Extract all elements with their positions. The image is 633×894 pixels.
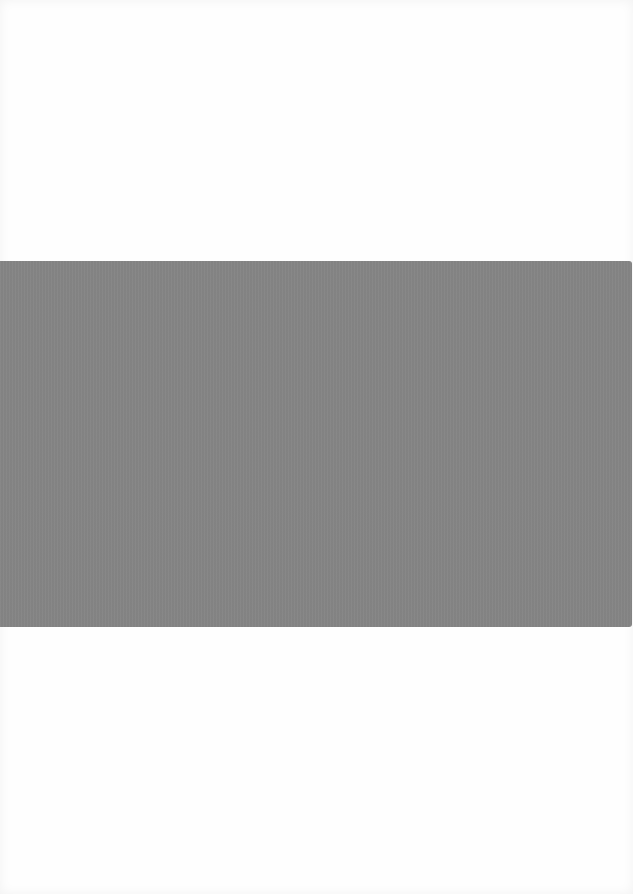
blank-bottom-region	[0, 627, 633, 894]
blank-top-region	[0, 0, 633, 261]
gray-band-block	[0, 261, 632, 627]
document-page	[0, 0, 633, 894]
